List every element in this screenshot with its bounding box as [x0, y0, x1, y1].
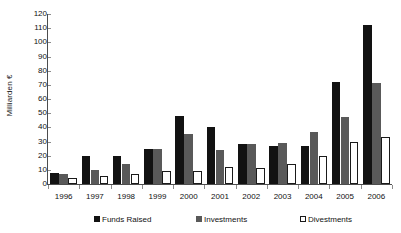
- x-axis-tick-label: 2003: [267, 192, 298, 202]
- bar: [50, 173, 59, 184]
- bar-chart: Milliarden € 120110100908070605040302010…: [0, 0, 401, 233]
- bar: [341, 117, 350, 184]
- bar-group: [173, 14, 204, 184]
- bar: [256, 168, 265, 184]
- x-axis-tick-label: 1998: [111, 192, 142, 202]
- bar-group: [48, 14, 79, 184]
- x-axis-tick-label: 2000: [173, 192, 204, 202]
- gray-square-icon: [196, 216, 202, 222]
- bar: [269, 146, 278, 184]
- bar: [193, 171, 202, 184]
- bar: [82, 156, 91, 184]
- legend-item-investments: Investments: [196, 215, 247, 224]
- bar: [381, 137, 390, 184]
- x-axis-tick-label: 2005: [329, 192, 360, 202]
- bar: [278, 143, 287, 184]
- bar: [310, 132, 319, 184]
- bars-layer: [48, 14, 392, 184]
- x-axis-tick-mark: [298, 185, 299, 189]
- bar: [363, 25, 372, 184]
- legend-label: Divestments: [308, 215, 352, 224]
- x-axis-tick-marks: [48, 185, 392, 190]
- bar-group: [329, 14, 360, 184]
- bar: [162, 171, 171, 184]
- x-axis-tick-mark: [329, 185, 330, 189]
- bar: [216, 150, 225, 184]
- white-square-icon: [300, 216, 306, 222]
- x-axis-tick-mark: [267, 185, 268, 189]
- x-axis-tick-label: 2006: [361, 192, 392, 202]
- x-axis-tick-label: 1996: [48, 192, 79, 202]
- legend-label: Investments: [204, 215, 247, 224]
- x-axis-tick-mark: [142, 185, 143, 189]
- bar-group: [298, 14, 329, 184]
- bar: [175, 116, 184, 184]
- x-axis-tick-label: 2004: [298, 192, 329, 202]
- bar: [238, 144, 247, 184]
- bar-group: [142, 14, 173, 184]
- bar-group: [361, 14, 392, 184]
- chart-legend: Funds Raised Investments Divestments: [48, 212, 392, 226]
- bar-group: [236, 14, 267, 184]
- bar: [319, 156, 328, 184]
- bar: [184, 134, 193, 184]
- bar-group: [111, 14, 142, 184]
- bar-group: [204, 14, 235, 184]
- bar-group: [267, 14, 298, 184]
- x-axis-tick-mark: [392, 185, 393, 189]
- x-axis-tick-mark: [236, 185, 237, 189]
- x-axis-tick-label: 1997: [79, 192, 110, 202]
- x-axis-tick-mark: [48, 185, 49, 189]
- x-axis-tick-mark: [204, 185, 205, 189]
- bar: [59, 174, 68, 184]
- bar-group: [79, 14, 110, 184]
- x-axis-tick-mark: [111, 185, 112, 189]
- x-axis-tick-labels: 1996199719981999200020012002200320042005…: [48, 192, 392, 206]
- bar: [100, 176, 109, 185]
- bar: [287, 164, 296, 184]
- bar: [113, 156, 122, 184]
- x-axis-tick-mark: [173, 185, 174, 189]
- bar: [350, 142, 359, 185]
- bar: [247, 144, 256, 184]
- bar: [225, 167, 234, 184]
- bar: [332, 82, 341, 184]
- bar: [372, 83, 381, 184]
- x-axis-tick-label: 2001: [204, 192, 235, 202]
- x-axis-tick-mark: [79, 185, 80, 189]
- legend-label: Funds Raised: [102, 215, 151, 224]
- bar: [301, 146, 310, 184]
- legend-item-divestments: Divestments: [300, 215, 352, 224]
- legend-item-funds-raised: Funds Raised: [94, 215, 151, 224]
- bar: [207, 127, 216, 184]
- bar: [122, 164, 131, 184]
- x-axis-tick-mark: [361, 185, 362, 189]
- x-axis-tick-label: 2002: [236, 192, 267, 202]
- bar: [153, 149, 162, 184]
- bar: [68, 178, 77, 184]
- bar: [131, 174, 140, 184]
- black-square-icon: [94, 216, 100, 222]
- bar: [144, 149, 153, 184]
- bar: [91, 170, 100, 184]
- x-axis-tick-label: 1999: [142, 192, 173, 202]
